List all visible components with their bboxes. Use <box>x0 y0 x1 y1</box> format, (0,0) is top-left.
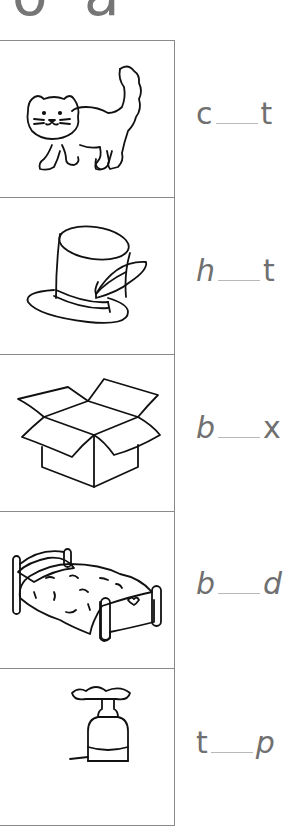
first-letter: c <box>196 99 213 129</box>
word-tap: t p <box>196 728 275 758</box>
answer-blank[interactable] <box>211 752 253 753</box>
word-box: b x <box>196 413 281 443</box>
header-letter-a: a <box>84 0 120 24</box>
answer-blank[interactable] <box>218 280 260 281</box>
first-letter: h <box>196 256 215 286</box>
last-letter: p <box>256 728 275 758</box>
picture-cell-tap <box>0 669 174 826</box>
first-letter: t <box>196 728 208 758</box>
word-cat: c t <box>196 99 272 129</box>
picture-cell-box <box>0 355 174 512</box>
cat-icon <box>0 41 174 197</box>
word-hat: h t <box>196 256 275 286</box>
tap-icon <box>0 669 174 825</box>
last-letter: x <box>263 413 281 443</box>
picture-cell-bed <box>0 512 174 669</box>
first-letter: b <box>196 569 215 599</box>
word-bed: b d <box>196 569 282 599</box>
picture-cell-cat <box>0 41 174 198</box>
header-partial-letters: o a <box>0 0 290 6</box>
picture-cell-hat <box>0 198 174 355</box>
answer-blank[interactable] <box>218 437 260 438</box>
bed-icon <box>0 512 174 668</box>
last-letter: t <box>261 99 273 129</box>
first-letter: b <box>196 413 215 443</box>
answer-blank[interactable] <box>218 593 260 594</box>
last-letter: t <box>263 256 275 286</box>
answer-blank[interactable] <box>216 123 258 124</box>
box-icon <box>0 355 174 511</box>
picture-grid <box>0 40 175 826</box>
last-letter: d <box>263 569 282 599</box>
top-hat-icon <box>0 198 174 354</box>
header-letter-o: o <box>12 0 48 24</box>
